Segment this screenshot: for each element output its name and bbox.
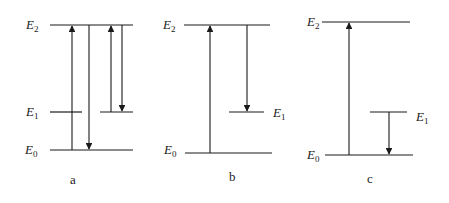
svg-text:E: E: [306, 147, 315, 162]
label-e0: E 0: [24, 142, 38, 159]
panel-caption-c: c: [367, 171, 373, 186]
label-e2: E 2: [25, 17, 39, 34]
label-e1: E 1: [25, 104, 39, 121]
svg-text:1: 1: [424, 116, 429, 126]
svg-text:E: E: [162, 17, 171, 32]
svg-text:E: E: [25, 17, 34, 32]
panel-c: E 2 E 1 E 0 c: [306, 14, 429, 186]
svg-text:1: 1: [34, 111, 39, 121]
svg-text:0: 0: [172, 149, 177, 159]
svg-text:E: E: [306, 14, 315, 29]
panel-a: E 2 E 1 E 0 a: [24, 17, 133, 187]
label-e2: E 2: [306, 14, 320, 31]
panel-b: E 2 E 1 E 0 b: [162, 17, 286, 184]
svg-text:2: 2: [171, 24, 176, 34]
svg-text:2: 2: [315, 21, 320, 31]
label-e1: E 1: [415, 109, 429, 126]
svg-text:E: E: [163, 142, 172, 157]
label-e0: E 0: [306, 147, 320, 164]
svg-text:E: E: [25, 104, 34, 119]
panel-caption-b: b: [229, 169, 236, 184]
svg-text:E: E: [415, 109, 424, 124]
label-e0: E 0: [163, 142, 177, 159]
svg-text:2: 2: [34, 24, 39, 34]
svg-text:E: E: [24, 142, 33, 157]
label-e1: E 1: [272, 105, 286, 122]
panel-caption-a: a: [70, 172, 76, 187]
label-e2: E 2: [162, 17, 176, 34]
svg-text:0: 0: [33, 149, 38, 159]
svg-text:E: E: [272, 105, 281, 120]
svg-text:0: 0: [315, 154, 320, 164]
energy-level-diagram: E 2 E 1 E 0 a E 2 E 1 E 0 b: [0, 0, 449, 203]
svg-text:1: 1: [281, 112, 286, 122]
